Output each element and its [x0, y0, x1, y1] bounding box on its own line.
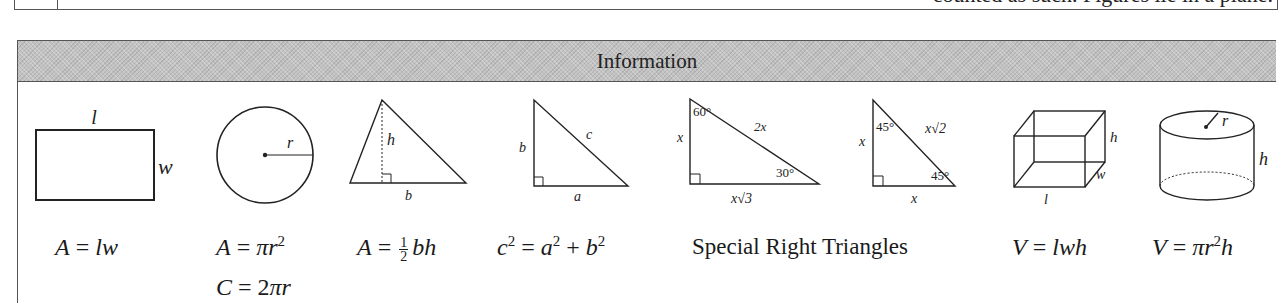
reference-note-text: counted as such. Figures lie in a plane.: [933, 0, 1273, 8]
triangle-area-formula: A = 12bh: [357, 234, 436, 263]
rectangular-prism-figure: h w l: [1012, 108, 1127, 203]
formula-lhs: A: [55, 234, 70, 260]
circle-area-formula: A = πr2: [216, 234, 285, 261]
30-60-90-triangle-figure: x 60° 2x 30° x√3: [676, 97, 826, 207]
formula-equals: =: [70, 234, 96, 260]
pi-symbol: π: [1192, 234, 1204, 260]
pi-symbol: π: [256, 234, 268, 260]
formula-exponent: 2: [278, 233, 286, 249]
special-right-triangles-caption: Special Right Triangles: [692, 234, 908, 260]
formula-rhs: bh: [412, 234, 436, 260]
rectangle-figure: l w: [36, 98, 166, 208]
cylinder-figure: r h: [1160, 110, 1272, 210]
rectangle-area-formula: A = lw: [55, 234, 118, 261]
rectangle-length-label: l: [91, 106, 97, 128]
prism-width-label: w: [1096, 167, 1106, 182]
var-b: b: [586, 234, 598, 260]
pi-symbol: π: [270, 274, 282, 300]
angle-45-top-label: 45°: [876, 119, 894, 134]
formula-height: h: [1221, 234, 1233, 260]
one-half-fraction: 12: [399, 236, 408, 263]
previous-table-row: counted as such. Figures lie in a plane.: [14, 0, 1278, 10]
formula-equals: =: [232, 274, 258, 300]
exp-b: 2: [598, 233, 606, 249]
triangle-height-label: h: [387, 131, 395, 148]
prism-volume-formula: V = lwh: [1012, 234, 1087, 261]
hypotenuse-x-root2-label: x√2: [924, 121, 946, 136]
formula-equals: =: [231, 234, 257, 260]
angle-45-right-label: 45°: [931, 168, 949, 183]
formula-lhs: C: [216, 274, 232, 300]
formula-lhs: A: [357, 234, 372, 260]
formula-coefficient: 2: [258, 274, 270, 300]
right-triangle-hypotenuse-c-label: c: [586, 127, 593, 142]
formula-variable: r: [1204, 234, 1213, 260]
formula-equals: =: [372, 234, 398, 260]
formula-equals: =: [515, 234, 541, 260]
formula-variable: r: [268, 234, 277, 260]
information-title: Information: [597, 41, 697, 81]
formula-lhs: A: [216, 234, 231, 260]
formula-plus: +: [560, 234, 586, 260]
right-triangle-leg-a-label: a: [574, 189, 581, 204]
circle-figure: r: [216, 108, 316, 208]
prism-height-label: h: [1110, 129, 1118, 145]
row-number-cell: [15, 0, 58, 9]
fraction-denominator: 2: [399, 250, 408, 263]
var-a: a: [541, 234, 553, 260]
formula-exponent: 2: [1214, 233, 1222, 249]
triangle-figure: h b: [349, 97, 474, 207]
circle-circumference-formula: C = 2πr: [216, 274, 291, 301]
triangle-base-label: b: [405, 188, 412, 203]
formula-equals: =: [1167, 234, 1193, 260]
formula-rhs: lw: [95, 234, 118, 260]
prism-length-label: l: [1044, 192, 1048, 207]
right-triangle-figure: b c a: [514, 98, 634, 208]
angle-60-label: 60°: [693, 104, 711, 119]
formula-variable: r: [282, 274, 291, 300]
formula-equals: =: [1027, 234, 1053, 260]
information-header: Information: [18, 41, 1276, 82]
angle-30-label: 30°: [776, 165, 794, 180]
formula-rhs: lwh: [1052, 234, 1087, 260]
fraction-numerator: 1: [399, 236, 408, 250]
cylinder-volume-formula: V = πr2h: [1152, 234, 1233, 261]
45-45-90-triangle-figure: x 45° x√2 45° x: [856, 98, 966, 208]
cylinder-height-label: h: [1259, 149, 1268, 169]
leg-x-horizontal-label: x: [910, 191, 918, 206]
short-leg-x-label: x: [676, 130, 684, 145]
hypotenuse-2x-label: 2x: [754, 119, 767, 134]
formula-lhs: V: [1012, 234, 1027, 260]
circle-radius-label: r: [287, 134, 294, 151]
pythagorean-formula: c2 = a2 + b2: [497, 234, 605, 261]
right-triangle-leg-b-label: b: [519, 140, 526, 155]
formula-lhs: V: [1152, 234, 1167, 260]
long-leg-x-root3-label: x√3: [730, 191, 752, 206]
rectangle-width-label: w: [158, 154, 173, 179]
leg-x-vertical-label: x: [858, 134, 866, 149]
var-c: c: [497, 234, 508, 260]
cylinder-radius-label: r: [1222, 112, 1229, 129]
